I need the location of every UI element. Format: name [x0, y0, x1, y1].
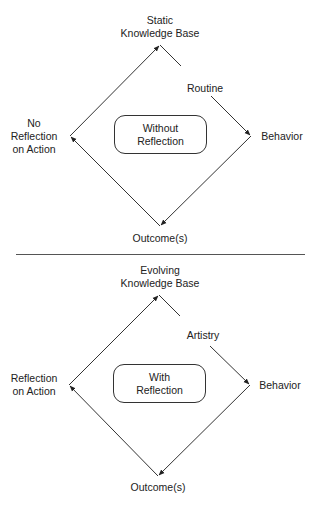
box-line: With [149, 371, 170, 384]
edge-kb-to-routine [160, 45, 181, 66]
box-line: Reflection [136, 384, 183, 397]
label-line: Reflection [2, 372, 66, 385]
label-line: Knowledge Base [110, 277, 210, 290]
arrow-routine-to-behavior [211, 96, 250, 135]
center-box-with-reflection: With Reflection [113, 364, 206, 403]
label-line: on Action [2, 143, 66, 156]
box-line: Reflection [137, 135, 184, 148]
label-knowledge-base: Evolving Knowledge Base [110, 264, 210, 290]
label-line: Static [110, 14, 210, 27]
label-outcome: Outcome(s) [118, 481, 198, 494]
diagram-canvas [0, 0, 312, 505]
label-line: No [2, 117, 66, 130]
label-reflection-on-action: No Reflection on Action [2, 117, 66, 156]
label-outcome: Outcome(s) [120, 232, 200, 245]
label-edge: Routine [180, 82, 230, 95]
box-line: Without [143, 122, 179, 135]
label-line: Knowledge Base [110, 27, 210, 40]
label-knowledge-base: Static Knowledge Base [110, 14, 210, 40]
center-box-without-reflection: Without Reflection [114, 115, 207, 154]
label-line: Reflection [2, 130, 66, 143]
label-edge: Artistry [178, 329, 228, 342]
arrow-artistry-to-behavior [210, 346, 249, 384]
section-divider [16, 254, 305, 255]
label-behavior: Behavior [252, 379, 308, 392]
label-reflection-on-action: Reflection on Action [2, 372, 66, 398]
label-line: on Action [2, 385, 66, 398]
label-line: Evolving [110, 264, 210, 277]
edge-kb-to-artistry [159, 295, 180, 316]
label-behavior: Behavior [254, 130, 310, 143]
